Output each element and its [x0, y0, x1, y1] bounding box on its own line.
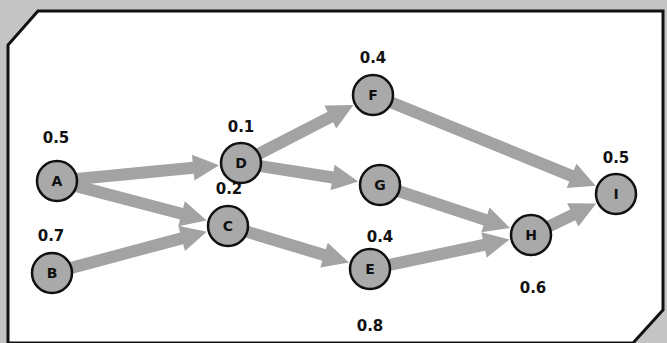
node-label: D: [235, 155, 247, 171]
node-value: 0.1: [228, 118, 255, 136]
node-label: G: [374, 177, 386, 193]
node-value: 0.5: [603, 149, 630, 167]
node-label: I: [613, 186, 618, 202]
node-value: 0.8: [357, 317, 384, 335]
node-label: C: [223, 218, 233, 234]
node-label: B: [47, 265, 58, 281]
node-label: E: [365, 261, 375, 277]
node-label: H: [525, 227, 537, 243]
node-value: 0.6: [520, 279, 547, 297]
diagram-canvas: A0.5B0.7C0.2D0.1E0.8F0.4G0.4H0.6I0.5: [0, 0, 667, 343]
node-value: 0.5: [43, 129, 70, 147]
node-value: 0.4: [367, 228, 394, 246]
node-value: 0.4: [360, 49, 387, 67]
node-label: F: [368, 87, 378, 103]
node-label: A: [52, 173, 63, 189]
node-value: 0.7: [38, 227, 65, 245]
